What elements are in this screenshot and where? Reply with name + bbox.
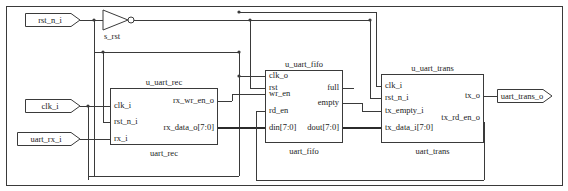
- block-u_uart_rec-instance-label: u_uart_rec: [110, 77, 218, 87]
- input-port-label: uart_rx_i: [30, 134, 67, 144]
- schematic-canvas: rst_n_i clk_i uart_rx_i uart_trans_o s_r…: [0, 0, 568, 191]
- net-label-s_rst: s_rst: [104, 31, 120, 41]
- input-port-label: clk_i: [42, 101, 65, 111]
- pin-u_uart_fifo-clk_o: clk_o: [269, 71, 288, 80]
- pin-u_uart_trans-clk_i: clk_i: [385, 81, 402, 90]
- input-port-rst_n_i[interactable]: rst_n_i: [25, 13, 81, 27]
- block-u_uart_trans-module-label: uart_trans: [381, 146, 484, 156]
- output-port-uart_trans_o[interactable]: uart_trans_o: [497, 89, 553, 103]
- pin-u_uart_fifo-full: full: [279, 83, 339, 92]
- pin-u_uart_fifo-dout: dout[7:0]: [269, 123, 339, 132]
- block-u_uart_trans-instance-label: u_uart_trans: [381, 63, 484, 73]
- pin-u_uart_rec-rx_i: rx_i: [114, 134, 128, 143]
- block-u_uart_fifo-instance-label: u_uart_fifo: [250, 59, 358, 69]
- pin-u_uart_rec-rx_data_o: rx_data_o[7:0]: [108, 123, 214, 132]
- input-port-uart_rx_i[interactable]: uart_rx_i: [17, 132, 81, 146]
- block-u_uart_rec-module-label: uart_rec: [110, 148, 218, 158]
- pin-u_uart_fifo-rd_en: rd_en: [269, 106, 288, 115]
- pin-u_uart_rec-rx_wr_en_o: rx_wr_en_o: [118, 96, 214, 105]
- output-port-label: uart_trans_o: [501, 91, 550, 101]
- block-u_uart_fifo-module-label: uart_fifo: [250, 146, 358, 156]
- pin-u_uart_trans-tx_rd_en_o: tx_rd_en_o: [400, 113, 480, 122]
- input-port-label: rst_n_i: [38, 15, 68, 25]
- pin-u_uart_trans-tx_o: tx_o: [420, 91, 480, 100]
- pin-u_uart_trans-tx_data_i: tx_data_i[7:0]: [385, 123, 433, 132]
- pin-u_uart_fifo-empty: empty: [273, 98, 339, 107]
- pin-u_uart_trans-rst_n_i: rst_n_i: [385, 93, 409, 102]
- input-port-clk_i[interactable]: clk_i: [25, 99, 81, 113]
